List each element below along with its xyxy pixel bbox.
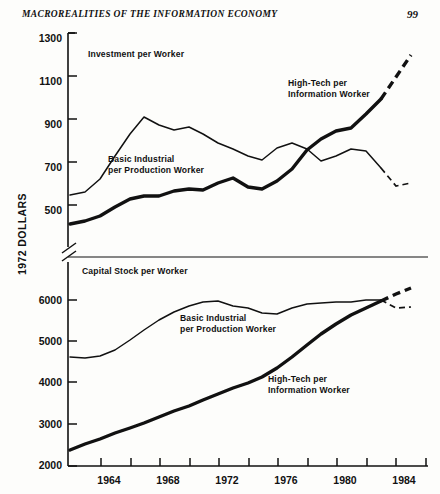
upper-panel-axes — [68, 33, 77, 247]
line-basic-industrial-lower — [70, 300, 381, 358]
line-basic-industrial-upper-projected — [381, 168, 411, 186]
chart-canvas — [0, 0, 440, 494]
line-high-tech-upper — [70, 99, 381, 224]
line-basic-industrial-upper — [70, 117, 381, 195]
axis-break — [62, 243, 76, 261]
line-high-tech-upper-projected — [381, 55, 411, 99]
line-high-tech-lower — [70, 301, 381, 450]
line-high-tech-lower-projected — [381, 288, 411, 301]
lower-panel-axes — [68, 262, 428, 466]
x-tick-marks — [101, 458, 426, 466]
line-basic-industrial-lower-projected — [381, 300, 411, 308]
book-page: MACROREALITIES OF THE INFORMATION ECONOM… — [0, 0, 440, 494]
